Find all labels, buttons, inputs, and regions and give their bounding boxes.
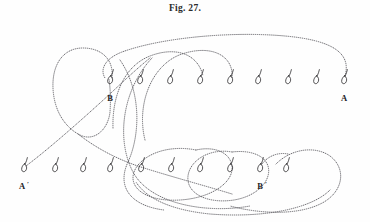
top-row-pin-4 (228, 70, 234, 84)
label-B-prime-prime-mark: ′ (265, 180, 267, 188)
label-A-prime-prime-mark: ′ (27, 180, 29, 188)
bottom-row-pin-0 (22, 158, 28, 172)
label-A-prime: A (19, 181, 26, 191)
thread-lower-inner-loop-2 (188, 151, 269, 201)
top-row-pin-2 (168, 70, 174, 84)
bottom-row-pin-3 (108, 158, 114, 172)
labels-group: ABA′B′ (19, 93, 348, 191)
label-B-prime: B (257, 181, 263, 191)
bottom-row-pin-5 (169, 158, 175, 172)
bottom-row-pin-1 (53, 158, 59, 172)
top-row-pin-7 (314, 70, 320, 84)
thread-outer-long-arc (103, 34, 346, 78)
bottom-row-pin-6 (198, 158, 204, 172)
label-A: A (341, 93, 348, 103)
threads-group (26, 34, 346, 215)
thread-third-arch (143, 50, 233, 140)
top-row-pin-5 (256, 70, 262, 84)
bottom-row-pin-9 (284, 158, 290, 172)
top-row-pin-0 (108, 70, 114, 84)
thread-right-descender (262, 153, 288, 164)
thread-lower-left-hook (78, 134, 232, 194)
bottom-row-pin-4 (139, 158, 145, 172)
figure-page: Fig. 27. ABA′B′ (0, 0, 370, 222)
label-B: B (107, 93, 113, 103)
bottom-row-pin-8 (258, 158, 264, 172)
top-row-pin-8 (342, 70, 348, 84)
thread-lower-right-loop (230, 150, 341, 212)
thread-lower-inner-loop-1 (133, 148, 232, 200)
top-row-pin-3 (198, 70, 204, 84)
thread-diagram-svg: ABA′B′ (0, 0, 370, 222)
thread-left-teardrop-loop (53, 48, 112, 137)
thread-second-arch (113, 52, 203, 128)
thread-long-diagonal-A-prime (26, 58, 150, 166)
bottom-row-pin-2 (81, 158, 87, 172)
top-row-pin-6 (286, 70, 292, 84)
pins-group (22, 70, 348, 172)
bottom-row-pin-7 (228, 158, 234, 172)
